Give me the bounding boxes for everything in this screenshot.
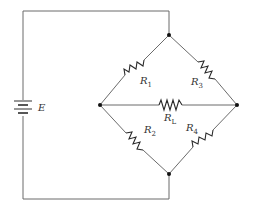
- right-node: [235, 103, 239, 107]
- circuit-diagram: E R1 R3 RL R2 R4: [0, 0, 255, 209]
- resistor-r4: [169, 105, 237, 174]
- left-node: [98, 103, 102, 107]
- source-label: E: [37, 102, 46, 113]
- resistor-r3: [169, 35, 237, 105]
- rl-label: RL: [163, 112, 177, 126]
- resistor-r2: [100, 105, 169, 174]
- bottom-node: [167, 172, 171, 176]
- resistor-r1: [100, 35, 169, 105]
- battery-icon: [14, 101, 32, 113]
- r3-label: R3: [190, 76, 203, 90]
- resistor-rl: [100, 100, 237, 110]
- r1-label: R1: [139, 75, 152, 89]
- top-node: [167, 33, 171, 37]
- r4-label: R4: [185, 122, 199, 136]
- r2-label: R2: [143, 124, 156, 138]
